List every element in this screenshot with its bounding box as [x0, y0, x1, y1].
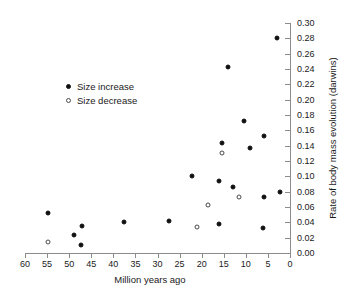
open-circle-icon [66, 98, 71, 103]
y-axis-tick-label: 0.04 [297, 217, 315, 227]
data-point [220, 151, 225, 156]
legend-item-size-increase: Size increase [66, 79, 137, 93]
y-axis-tick [285, 69, 290, 70]
y-axis-tick-label: 0.28 [297, 33, 315, 43]
y-axis-tick-label: 0.30 [297, 18, 315, 28]
y-axis-tick [285, 146, 290, 147]
data-point [260, 226, 265, 231]
filled-circle-icon [66, 84, 71, 89]
x-axis-tick-label: 0 [287, 259, 292, 269]
x-axis-tick-label: 20 [197, 259, 207, 269]
x-axis-title: Million years ago [0, 274, 300, 285]
y-axis-tick [285, 253, 290, 254]
data-point [237, 195, 242, 200]
y-axis-tick [285, 238, 290, 239]
y-axis-tick-label: 0.12 [297, 156, 315, 166]
y-axis-tick-label: 0.10 [297, 171, 315, 181]
data-point [217, 178, 222, 183]
x-axis-tick [180, 254, 181, 258]
x-axis-tick-label: 45 [86, 259, 96, 269]
y-axis-tick-label: 0.14 [297, 141, 315, 151]
data-point [230, 185, 235, 190]
data-point [45, 211, 50, 216]
legend-label: Size increase [77, 81, 134, 92]
x-axis-tick-label: 40 [108, 259, 118, 269]
x-axis-tick [202, 254, 203, 258]
data-point [241, 119, 246, 124]
data-point [261, 134, 266, 139]
data-point [166, 218, 171, 223]
data-point [219, 141, 224, 146]
y-axis-tick-label: 0.08 [297, 187, 315, 197]
x-axis-tick-label: 50 [64, 259, 74, 269]
x-axis-tick [224, 254, 225, 258]
x-axis-tick [268, 254, 269, 258]
data-point [122, 220, 127, 225]
y-axis-tick [285, 161, 290, 162]
x-axis-tick-label: 10 [241, 259, 251, 269]
data-point [278, 189, 283, 194]
x-axis-tick-label: 25 [175, 259, 185, 269]
y-axis-tick-label: 0.24 [297, 64, 315, 74]
scatter-plot-figure: 605550454035302520151050 0.000.020.040.0… [0, 0, 357, 302]
y-axis-tick-label: 0.26 [297, 49, 315, 59]
x-axis-tick-label: 15 [219, 259, 229, 269]
data-point [72, 233, 77, 238]
y-axis-title: Rate of body mass evolution (darwins) [327, 22, 341, 254]
y-axis-tick-label: 0.18 [297, 110, 315, 120]
y-axis-tick-label: 0.00 [297, 248, 315, 258]
x-axis-tick [47, 254, 48, 258]
y-axis-tick-label: 0.02 [297, 233, 315, 243]
x-axis-tick [290, 254, 291, 258]
y-axis-tick [285, 115, 290, 116]
y-axis-tick [285, 23, 290, 24]
x-axis-tick [158, 254, 159, 258]
y-axis-tick-label: 0.16 [297, 125, 315, 135]
x-axis-tick-label: 30 [152, 259, 162, 269]
data-point [248, 145, 253, 150]
legend: Size increase Size decrease [66, 79, 137, 107]
y-axis-tick-label: 0.20 [297, 95, 315, 105]
y-axis-tick-label: 0.22 [297, 79, 315, 89]
x-axis-tick [113, 254, 114, 258]
data-point [217, 221, 222, 226]
x-axis-tick [25, 254, 26, 258]
y-axis-tick [285, 176, 290, 177]
y-axis-tick [285, 192, 290, 193]
y-axis-tick [285, 100, 290, 101]
y-axis-tick [285, 38, 290, 39]
data-point [226, 65, 231, 70]
y-axis-tick [285, 222, 290, 223]
y-axis-tick [285, 207, 290, 208]
x-axis-tick-label: 35 [130, 259, 140, 269]
data-point [206, 202, 211, 207]
data-point [45, 239, 50, 244]
x-axis-tick-label: 55 [42, 259, 52, 269]
y-axis-line [290, 23, 291, 254]
x-axis-tick-label: 60 [20, 259, 30, 269]
data-point [79, 224, 84, 229]
x-axis-tick-label: 5 [265, 259, 270, 269]
x-axis-tick [246, 254, 247, 258]
x-axis-tick [69, 254, 70, 258]
data-point [274, 35, 279, 40]
y-axis-tick [285, 54, 290, 55]
data-point [189, 173, 194, 178]
data-point [79, 242, 84, 247]
x-axis-tick [135, 254, 136, 258]
data-point [195, 224, 200, 229]
x-axis-tick [91, 254, 92, 258]
legend-label: Size decrease [77, 95, 137, 106]
y-axis-tick-label: 0.06 [297, 202, 315, 212]
data-point [261, 195, 266, 200]
legend-item-size-decrease: Size decrease [66, 93, 137, 107]
plot-area [25, 23, 290, 253]
y-axis-tick [285, 130, 290, 131]
y-axis-tick [285, 84, 290, 85]
